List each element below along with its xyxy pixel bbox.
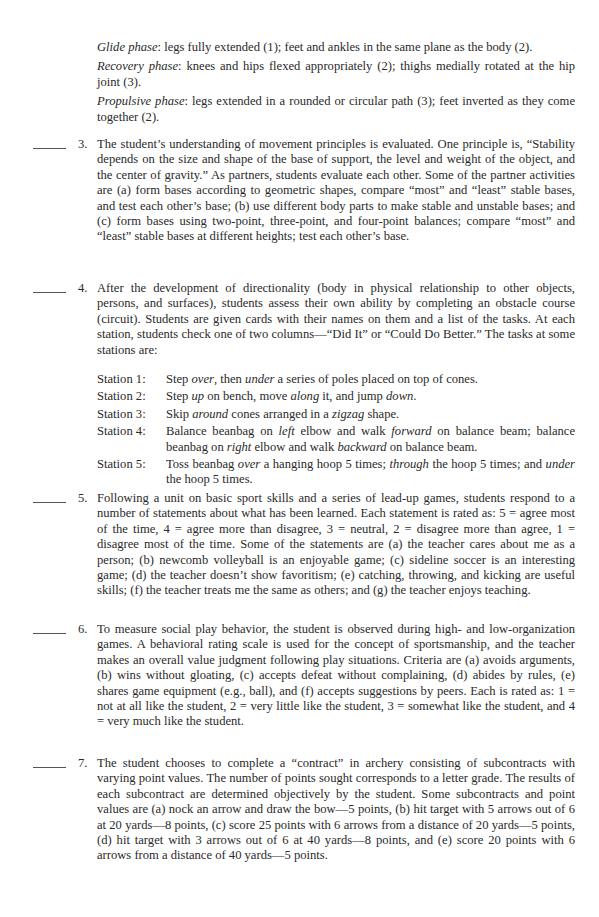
recovery-phase-criteria: Recovery phase: knees and hips flexed ap… bbox=[97, 59, 575, 90]
item-number: 3. bbox=[78, 137, 94, 152]
station-task: Step up on bench, move along it, and jum… bbox=[166, 389, 575, 404]
answer-blank[interactable] bbox=[33, 502, 66, 503]
recovery-phase-label: Recovery phase bbox=[97, 59, 178, 73]
station-task: Balance beanbag on left elbow and walk f… bbox=[166, 424, 575, 455]
station-label: Station 3: bbox=[97, 407, 165, 422]
item-text: After the development of directionality … bbox=[97, 281, 575, 358]
station-task: Toss beanbag over a hanging hoop 5 times… bbox=[166, 457, 575, 488]
item-number: 6. bbox=[78, 622, 94, 637]
station-label: Station 2: bbox=[97, 389, 165, 404]
glide-phase-label: Glide phase bbox=[97, 40, 158, 54]
glide-phase-text: : legs fully extended (1); feet and ankl… bbox=[158, 40, 533, 54]
station-task: Step over, then under a series of poles … bbox=[166, 372, 575, 387]
item-text: To measure social play behavior, the stu… bbox=[97, 622, 575, 730]
answer-blank[interactable] bbox=[33, 148, 66, 149]
item-text: The student’s understanding of movement … bbox=[97, 137, 575, 245]
glide-phase-criteria: Glide phase: legs fully extended (1); fe… bbox=[97, 40, 575, 55]
item-number: 5. bbox=[78, 491, 94, 506]
station-item: Station 2: Step up on bench, move along … bbox=[97, 389, 575, 404]
propulsive-phase-criteria: Propulsive phase: legs extended in a rou… bbox=[97, 94, 575, 125]
answer-blank[interactable] bbox=[33, 292, 66, 293]
item-number: 4. bbox=[78, 281, 94, 296]
station-label: Station 5: bbox=[97, 457, 165, 472]
propulsive-phase-label: Propulsive phase bbox=[97, 94, 185, 108]
station-list: Station 1: Step over, then under a serie… bbox=[97, 370, 575, 488]
answer-blank[interactable] bbox=[33, 633, 66, 634]
station-task: Skip around cones arranged in a zigzag s… bbox=[166, 407, 575, 422]
previous-item-continuation: Glide phase: legs fully extended (1); fe… bbox=[97, 40, 575, 129]
answer-blank[interactable] bbox=[33, 767, 66, 768]
station-item: Station 1: Step over, then under a serie… bbox=[97, 372, 575, 387]
station-item: Station 5: Toss beanbag over a hanging h… bbox=[97, 457, 575, 488]
station-label: Station 1: bbox=[97, 372, 165, 387]
station-label: Station 4: bbox=[97, 424, 165, 439]
item-text: Following a unit on basic sport skills a… bbox=[97, 491, 575, 599]
item-text: The student chooses to complete a “contr… bbox=[97, 756, 575, 864]
station-item: Station 4: Balance beanbag on left elbow… bbox=[97, 424, 575, 455]
station-item: Station 3: Skip around cones arranged in… bbox=[97, 407, 575, 422]
item-number: 7. bbox=[78, 756, 94, 771]
